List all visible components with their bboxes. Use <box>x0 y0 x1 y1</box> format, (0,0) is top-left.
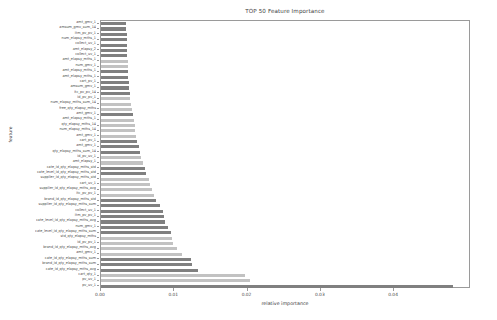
x-tick-mark <box>173 288 174 291</box>
y-tick-mark <box>97 248 99 249</box>
bar <box>101 204 160 207</box>
y-tick-label: amt_elapsy_mths_1 <box>62 58 96 62</box>
figure: TOP 50 Feature Importance feature amt_gm… <box>0 0 497 320</box>
y-tick-label: num_gmv_1 <box>75 225 96 229</box>
bar <box>101 92 130 95</box>
y-tick-mark <box>97 55 99 56</box>
y-tick-mark <box>97 98 99 99</box>
y-tick-mark <box>97 28 99 29</box>
y-tick-mark <box>97 87 99 88</box>
bar <box>101 49 127 52</box>
y-tick-mark <box>97 210 99 211</box>
bar <box>101 65 128 68</box>
y-tick-label: itc_pv_pv_1 <box>76 192 96 196</box>
bar <box>101 27 126 30</box>
y-tick-mark <box>97 269 99 270</box>
bar <box>101 161 143 164</box>
chart-title: TOP 50 Feature Importance <box>100 8 470 14</box>
bar <box>101 22 126 25</box>
y-tick-mark <box>97 162 99 163</box>
y-tick-mark <box>97 253 99 254</box>
y-tick-label: free_qty_elapsy_mths <box>59 107 96 111</box>
y-tick-mark <box>97 183 99 184</box>
bar <box>101 188 152 191</box>
y-tick-label: amsum_gmv_1 <box>70 85 96 89</box>
bar <box>101 172 146 175</box>
y-tick-mark <box>97 258 99 259</box>
y-tick-label: amt_gmv_1 <box>76 144 96 148</box>
bar <box>101 151 140 154</box>
y-tick-mark <box>97 114 99 115</box>
y-tick-mark <box>97 189 99 190</box>
bar <box>101 263 192 266</box>
bar <box>101 86 129 89</box>
y-tick-mark <box>97 200 99 201</box>
bar <box>101 253 182 256</box>
x-tick-label: 0.02 <box>242 292 252 297</box>
bar <box>101 113 133 116</box>
y-tick-mark <box>97 280 99 281</box>
y-tick-label: itc_pv_pv_14 <box>74 91 96 95</box>
bar <box>101 81 129 84</box>
y-tick-mark <box>97 92 99 93</box>
bar <box>101 54 127 57</box>
y-tick-label: collect_uv_1 <box>75 208 96 212</box>
bar <box>101 140 137 143</box>
y-tick-mark <box>97 49 99 50</box>
y-tick-mark <box>97 141 99 142</box>
y-tick-mark <box>97 130 99 131</box>
y-tick-mark <box>97 119 99 120</box>
y-tick-label: cart_uv_1 <box>80 182 96 186</box>
bar <box>101 70 128 73</box>
y-tick-mark <box>97 103 99 104</box>
bar <box>101 269 198 272</box>
y-tick-mark <box>97 108 99 109</box>
y-tick-mark <box>97 33 99 34</box>
y-tick-row: pv_uv_1 <box>0 283 99 288</box>
y-tick-mark <box>97 232 99 233</box>
x-tick-label: 0.00 <box>95 292 105 297</box>
bar <box>101 226 168 229</box>
y-tick-label: pv_uv_1 <box>82 278 96 282</box>
y-tick-mark <box>97 125 99 126</box>
bar <box>101 183 150 186</box>
bar <box>101 124 135 127</box>
y-tick-mark <box>97 237 99 238</box>
y-tick-label: itm_pv_pv_1 <box>75 32 96 36</box>
bar <box>101 119 134 122</box>
y-tick-label: amt_elapsy_mths_1 <box>62 117 96 121</box>
bar <box>101 167 145 170</box>
y-tick-label: cate_level_id_qty_elapsy_mths_avg <box>36 219 96 223</box>
bar <box>101 129 135 132</box>
y-tick-mark <box>97 264 99 265</box>
y-tick-label: supplier_id_qty_elapsy_mths_std <box>41 176 96 180</box>
x-tick-mark <box>320 288 321 291</box>
bar <box>101 145 139 148</box>
y-tick-mark <box>97 66 99 67</box>
y-tick-mark <box>97 135 99 136</box>
y-tick-mark <box>97 173 99 174</box>
bar <box>101 38 127 41</box>
bar <box>101 108 132 111</box>
y-tick-label: cate_id_qty_elapsy_mths_std <box>47 166 96 170</box>
y-tick-label: amt_gmv_1 <box>76 251 96 255</box>
y-tick-label: cart_qty_1 <box>78 273 96 277</box>
y-tick-mark <box>97 44 99 45</box>
bar <box>101 258 191 261</box>
x-axis: relative importance 0.000.010.020.030.04 <box>100 288 470 318</box>
y-tick-mark <box>97 157 99 158</box>
y-tick-label: brand_id_qty_elapsy_mths_std <box>44 198 96 202</box>
y-tick-mark <box>97 39 99 40</box>
bar <box>101 215 164 218</box>
bar <box>101 97 130 100</box>
y-tick-label: id_pv_pv_1 <box>77 241 96 245</box>
y-tick-mark <box>97 82 99 83</box>
y-tick-mark <box>97 275 99 276</box>
y-tick-label: supplier_id_qty_elapsy_mths_sum <box>39 203 96 207</box>
y-tick-label: qty_elapsy_mths_14 <box>62 123 96 127</box>
bar <box>101 76 128 79</box>
bar <box>101 33 127 36</box>
y-tick-label: amt_gmv_1 <box>76 133 96 137</box>
bar <box>101 274 245 277</box>
bar <box>101 220 165 223</box>
